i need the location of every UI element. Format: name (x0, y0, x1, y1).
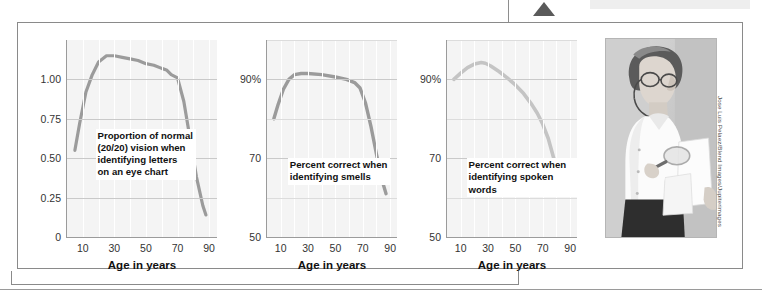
vertical-gridline (390, 40, 391, 237)
vertical-gridline (488, 40, 489, 237)
x-axis-tick-label: 90 (564, 242, 576, 254)
horizontal-gridline (447, 79, 577, 80)
vertical-gridline (461, 40, 462, 237)
x-axis-tick-label: 30 (302, 242, 314, 254)
y-axis-tick-label: 0 (55, 231, 61, 243)
vertical-gridline (543, 40, 544, 237)
annotation-smell: Percent correct when identifying smells (288, 158, 391, 185)
annotation-vision: Proportion of normal (20/20) vision when… (96, 129, 196, 180)
horizontal-gridline (67, 198, 217, 199)
chart-panel-smell: Percent correct when identifying smells … (222, 28, 397, 263)
y-axis-tick-label: 0.50 (41, 152, 61, 164)
x-axis-tick-label: 50 (140, 242, 152, 254)
y-axis-tick-label: 1.00 (41, 73, 61, 85)
chart-panel-vision: Proportion of normal (20/20) vision when… (22, 28, 217, 263)
vertical-gridline (474, 40, 475, 237)
x-axis-title-vision: Age in years (108, 259, 176, 271)
curve-hearing (447, 40, 577, 237)
triangle-pointer-icon (533, 2, 555, 16)
y-axis-tick-label: 50 (429, 231, 441, 243)
vertical-gridline (556, 40, 557, 237)
horizontal-gridline (267, 198, 397, 199)
chart-panel-hearing: Percent correct when identifying spoken … (402, 28, 577, 263)
horizontal-gridline (267, 119, 397, 120)
vertical-gridline (335, 40, 336, 237)
plot-area-hearing: Percent correct when identifying spoken … (446, 40, 577, 238)
annotation-line: Proportion of normal (98, 130, 193, 142)
vertical-gridline (83, 40, 84, 237)
top-vertical-rule (508, 0, 509, 22)
x-axis-tick-label: 10 (77, 242, 89, 254)
x-axis-tick-label: 70 (172, 242, 184, 254)
horizontal-gridline (67, 79, 217, 80)
vertical-gridline (515, 40, 516, 237)
vertical-gridline (209, 40, 210, 237)
horizontal-gridline (267, 40, 397, 41)
vertical-gridline (502, 40, 503, 237)
annotation-line: Percent correct when (290, 159, 388, 171)
annotation-line: identifying letters (98, 154, 193, 166)
x-axis-tick-label: 30 (482, 242, 494, 254)
x-axis-tick-label: 90 (384, 242, 396, 254)
page-bottom-rule (0, 289, 762, 290)
x-axis-tick-label: 70 (357, 242, 369, 254)
vertical-gridline (308, 40, 309, 237)
x-axis-title-hearing: Age in years (478, 259, 546, 271)
y-axis-tick-label: 70 (249, 152, 261, 164)
horizontal-gridline (447, 198, 577, 199)
vertical-gridline (570, 40, 571, 237)
plot-area-vision: Proportion of normal (20/20) vision when… (66, 40, 217, 238)
y-axis-tick-label: 70 (429, 152, 441, 164)
vertical-gridline (322, 40, 323, 237)
annotation-line: Percent correct when (469, 159, 575, 171)
x-axis-tick-label: 50 (330, 242, 342, 254)
vertical-gridline (529, 40, 530, 237)
figure-frame-lower (11, 271, 519, 285)
x-axis-tick-label: 90 (203, 242, 215, 254)
photo-credit: Jose Luis Pelaez/Blend Images/Jupiterima… (717, 96, 724, 227)
horizontal-gridline (67, 119, 217, 120)
x-axis-title-smell: Age in years (298, 259, 366, 271)
horizontal-gridline (447, 40, 577, 41)
annotation-line: on an eye chart (98, 166, 193, 178)
figure-root: Proportion of normal (20/20) vision when… (0, 0, 762, 298)
vertical-gridline (294, 40, 295, 237)
horizontal-gridline (267, 79, 397, 80)
y-axis-tick-label: 0.25 (41, 192, 61, 204)
x-axis-tick-label: 70 (537, 242, 549, 254)
annotation-hearing: Percent correct when identifying spoken … (467, 158, 578, 197)
horizontal-gridline (447, 119, 577, 120)
elderly-woman-with-magnifying-glass-photo (605, 38, 717, 238)
vertical-gridline (363, 40, 364, 237)
y-axis-tick-label: 50 (249, 231, 261, 243)
photo-illustration (606, 39, 716, 237)
x-axis-tick-label: 10 (275, 242, 287, 254)
curve-smell (267, 40, 397, 237)
y-axis-tick-label: 0.75 (41, 113, 61, 125)
annotation-line: identifying spoken words (469, 171, 575, 196)
y-axis-tick-label: 90% (240, 73, 261, 85)
x-axis-tick-label: 10 (455, 242, 467, 254)
vertical-gridline (349, 40, 350, 237)
top-strip-decoration (590, 0, 750, 9)
y-axis-tick-label: 90% (420, 73, 441, 85)
annotation-line: identifying smells (290, 171, 388, 183)
annotation-line: (20/20) vision when (98, 142, 193, 154)
vertical-gridline (281, 40, 282, 237)
x-axis-tick-label: 30 (109, 242, 121, 254)
x-axis-tick-label: 50 (510, 242, 522, 254)
plot-area-smell: Percent correct when identifying smells … (266, 40, 397, 238)
vertical-gridline (376, 40, 377, 237)
